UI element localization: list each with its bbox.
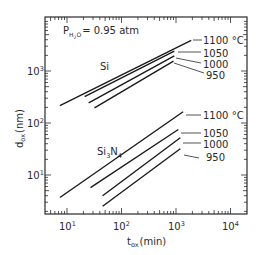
si-temp-1100: 1100 °C	[203, 35, 244, 46]
si-temp-950: 950	[206, 70, 225, 81]
x-tick-10-1: 101	[59, 220, 76, 232]
data-series	[60, 40, 191, 206]
y-tick-10-2: 102	[27, 117, 44, 129]
y-tick-10-3: 103	[27, 65, 44, 77]
leader-si-1000	[176, 58, 201, 63]
oxide-thickness-chart: 101 102 103 101 102 103 104 tox(min) dox…	[0, 0, 259, 255]
si-temp-1050: 1050	[203, 48, 228, 59]
nit-temp-1000: 1000	[203, 139, 228, 150]
si-group-label: Si	[100, 61, 109, 72]
si3n4-group-label: Si3N4	[97, 146, 122, 160]
series-line-si3n4-950-c	[103, 149, 181, 207]
y-tick-labels: 101 102 103	[27, 65, 44, 181]
leader-nit-950	[184, 155, 199, 158]
series-line-si-1100-c	[60, 40, 191, 105]
series-line-si3n4-1050-c	[91, 130, 179, 188]
x-tick-10-2: 102	[113, 220, 130, 232]
nit-temp-1100: 1100 °C	[203, 110, 244, 121]
pressure-annotation: PH2O= 0.95 atm	[63, 25, 139, 40]
x-tick-10-3: 103	[168, 220, 185, 232]
y-tick-10-1: 101	[27, 169, 44, 181]
series-line-si3n4-1100-c	[60, 112, 183, 198]
x-tick-labels: 101 102 103 104	[59, 220, 239, 232]
nit-temp-1050: 1050	[203, 128, 228, 139]
nit-temp-950: 950	[206, 152, 225, 163]
x-tick-10-4: 104	[222, 220, 239, 232]
leader-si-950	[174, 63, 204, 73]
temperature-labels: 1100 °C 1050 1000 950 1100 °C 1050 1000 …	[203, 35, 244, 163]
series-line-si-1050-c	[85, 51, 175, 96]
x-axis-title: tox(min)	[127, 236, 166, 249]
leader-lines	[174, 40, 204, 158]
si-temp-1000: 1000	[203, 59, 228, 70]
y-axis-title: dox(nm)	[14, 109, 27, 148]
